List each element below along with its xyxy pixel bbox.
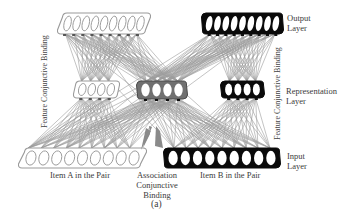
unit-node [234, 83, 241, 95]
unit-node [225, 83, 232, 95]
unit-node [193, 151, 202, 165]
input-a-unit-group [18, 148, 146, 168]
unit-node [254, 151, 263, 165]
unit-node [163, 84, 171, 97]
unit-node [181, 151, 190, 165]
input-b-unit-group [164, 148, 281, 168]
unit-node [230, 151, 239, 165]
representation-layer-label-line2: Layer [286, 96, 337, 106]
rep-a-unit-group [73, 81, 119, 100]
unit-node [266, 151, 275, 165]
unit-node [217, 151, 226, 165]
input-layer-label-line1: Input [287, 151, 307, 161]
unit-node [244, 83, 251, 95]
output-a-unit-group [57, 13, 150, 36]
right-feature-binding-label: Feature Conjunctive Binding [273, 47, 282, 140]
rep-assoc-unit-group [137, 81, 188, 101]
association-label-line1: Association [131, 170, 183, 180]
item-a-label: Item A in the Pair [50, 170, 110, 180]
unit-node [174, 84, 182, 97]
representation-layer-label-line1: Representation [286, 86, 337, 96]
output-layer-label: Output Layer [287, 13, 311, 33]
association-binding-label: Association Conjunctive Binding [131, 170, 183, 200]
rep-b-unit-group [221, 81, 265, 100]
unit-node [152, 84, 160, 97]
unit-node [205, 151, 214, 165]
association-label-line2: Conjunctive [131, 180, 183, 190]
unit-node [141, 84, 149, 97]
output-layer-label-line2: Layer [287, 23, 311, 33]
representation-layer-label: Representation Layer [286, 86, 337, 106]
unit-node [253, 83, 260, 95]
figure-caption: (a) [151, 199, 162, 209]
association-arrows [141, 126, 163, 150]
input-layer-label-line2: Layer [287, 161, 307, 171]
output-layer-label-line1: Output [287, 13, 311, 23]
input-layer-label: Input Layer [287, 151, 307, 171]
output-b-unit-group [202, 13, 284, 36]
item-b-label: Item B in the Pair [200, 170, 260, 180]
unit-node [242, 151, 251, 165]
unit-node [168, 151, 177, 165]
left-feature-binding-label: Feature Conjunctive Binding [40, 35, 49, 128]
unit-groups [18, 13, 283, 168]
